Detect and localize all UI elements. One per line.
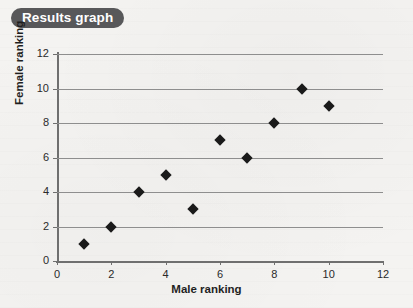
x-axis-tick-label: 8 — [259, 268, 289, 280]
y-axis-tick — [53, 158, 57, 159]
y-axis-tick-label: 2 — [27, 220, 49, 232]
gridline — [57, 192, 383, 193]
y-axis-tick-label: 4 — [27, 185, 49, 197]
x-axis-tick — [166, 261, 167, 265]
x-axis-tick-label: 6 — [205, 268, 235, 280]
results-graph-figure: Results graph 024681012 024681012 Male r… — [0, 0, 413, 308]
data-point-marker — [323, 100, 334, 111]
x-axis-tick-label: 0 — [42, 268, 72, 280]
x-axis-tick — [111, 261, 112, 265]
y-axis-tick-label: 6 — [27, 151, 49, 163]
y-axis-tick — [53, 89, 57, 90]
gridline — [57, 54, 383, 55]
y-axis-tick-label: 8 — [27, 116, 49, 128]
x-axis-tick-label: 4 — [151, 268, 181, 280]
y-axis-tick-label: 0 — [27, 254, 49, 266]
y-axis-tick-label: 10 — [27, 82, 49, 94]
plot-area — [57, 54, 383, 261]
y-axis-tick — [53, 192, 57, 193]
x-axis-tick-label: 2 — [96, 268, 126, 280]
y-axis-tick-label: 12 — [27, 47, 49, 59]
x-axis-tick — [57, 261, 58, 265]
data-point-marker — [269, 117, 280, 128]
y-axis-tick — [53, 123, 57, 124]
x-axis-tick — [383, 261, 384, 265]
data-point-marker — [133, 186, 144, 197]
x-axis-tick-label: 10 — [314, 268, 344, 280]
x-axis-tick — [274, 261, 275, 265]
x-axis-tick-label: 12 — [368, 268, 398, 280]
gridline — [57, 123, 383, 124]
x-axis-tick — [220, 261, 221, 265]
data-point-marker — [187, 204, 198, 215]
gridline — [57, 158, 383, 159]
gridline — [57, 89, 383, 90]
x-axis-title: Male ranking — [0, 283, 413, 295]
y-axis-title: Female ranking — [13, 21, 25, 105]
data-point-marker — [214, 135, 225, 146]
data-point-marker — [296, 83, 307, 94]
page-title: Results graph — [11, 8, 124, 28]
x-axis-tick — [329, 261, 330, 265]
data-point-marker — [160, 169, 171, 180]
data-point-marker — [241, 152, 252, 163]
y-axis-tick — [53, 227, 57, 228]
data-point-marker — [106, 221, 117, 232]
data-point-marker — [78, 238, 89, 249]
y-axis-tick — [53, 54, 57, 55]
